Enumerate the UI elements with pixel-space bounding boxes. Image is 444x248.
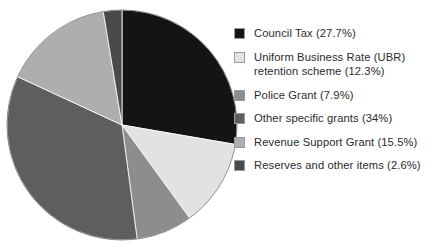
pie-slice[interactable] bbox=[122, 10, 237, 144]
legend-item-ubr-retention-scheme[interactable]: Uniform Business Rate (UBR) retention sc… bbox=[234, 50, 444, 79]
legend-label-reserves-and-other-items: Reserves and other items (2.6%) bbox=[254, 158, 421, 173]
legend-label-council-tax: Council Tax (27.7%) bbox=[254, 26, 356, 41]
pie-chart-svg bbox=[0, 0, 240, 248]
legend-swatch-other-specific-grants bbox=[234, 113, 245, 124]
legend-swatch-council-tax bbox=[234, 28, 245, 39]
chart-legend: Council Tax (27.7%) Uniform Business Rat… bbox=[234, 26, 444, 182]
pie-chart-figure: Council Tax (27.7%) Uniform Business Rat… bbox=[0, 0, 444, 248]
pie-slice-group bbox=[7, 10, 237, 240]
legend-item-council-tax[interactable]: Council Tax (27.7%) bbox=[234, 26, 444, 41]
legend-swatch-reserves-and-other-items bbox=[234, 160, 245, 171]
legend-label-ubr-retention-scheme: Uniform Business Rate (UBR) retention sc… bbox=[254, 50, 405, 79]
legend-label-other-specific-grants: Other specific grants (34%) bbox=[254, 111, 392, 126]
pie-chart-plot-area bbox=[0, 0, 240, 248]
legend-item-revenue-support-grant[interactable]: Revenue Support Grant (15.5%) bbox=[234, 135, 444, 150]
legend-swatch-revenue-support-grant bbox=[234, 137, 245, 148]
legend-item-reserves-and-other-items[interactable]: Reserves and other items (2.6%) bbox=[234, 158, 444, 173]
legend-item-other-specific-grants[interactable]: Other specific grants (34%) bbox=[234, 111, 444, 126]
legend-label-police-grant: Police Grant (7.9%) bbox=[254, 88, 354, 103]
legend-swatch-police-grant bbox=[234, 90, 245, 101]
legend-swatch-ubr-retention-scheme bbox=[234, 52, 245, 63]
legend-label-revenue-support-grant: Revenue Support Grant (15.5%) bbox=[254, 135, 417, 150]
legend-item-police-grant[interactable]: Police Grant (7.9%) bbox=[234, 88, 444, 103]
